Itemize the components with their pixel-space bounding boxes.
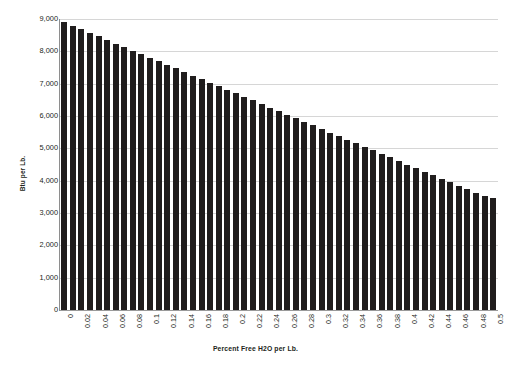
- x-axis-tick-label: 0.18: [222, 314, 230, 328]
- x-axis-tick-label: 0.22: [256, 314, 264, 328]
- bar: [70, 26, 76, 310]
- bar-chart: Btu per Lb. 9,0008,0007,0006,0005,0004,0…: [0, 0, 511, 366]
- bar: [216, 86, 222, 310]
- y-axis-tick-label: 4,000: [24, 177, 58, 185]
- x-axis-tick-label: 0.38: [394, 314, 402, 328]
- x-axis-tick-label: 0.32: [342, 314, 350, 328]
- bar: [250, 100, 256, 310]
- bar: [413, 168, 419, 310]
- bar: [138, 54, 144, 310]
- bar: [173, 68, 179, 310]
- x-axis-tick-label: 0.06: [119, 314, 127, 328]
- y-axis-tick-label: 8,000: [24, 47, 58, 55]
- x-axis-tick-label: 0.28: [308, 314, 316, 328]
- bar: [370, 150, 376, 310]
- x-axis-tick-label: 0.12: [170, 314, 178, 328]
- bar: [224, 90, 230, 310]
- x-axis-tick-label: 0.1: [153, 314, 161, 324]
- bar: [284, 115, 290, 310]
- x-axis-tick-label: 0.2: [239, 314, 247, 324]
- bar: [336, 136, 342, 310]
- y-axis-tick-label: 6,000: [24, 112, 58, 120]
- x-axis-tick-label: 0.4: [411, 314, 419, 324]
- x-axis-tick-label: 0.42: [428, 314, 436, 328]
- bar: [456, 186, 462, 310]
- bar: [241, 97, 247, 310]
- x-axis-tick-label: 0.16: [205, 314, 213, 328]
- bar: [164, 65, 170, 310]
- x-axis-tick-label: 0.24: [273, 314, 281, 328]
- bar: [113, 44, 119, 310]
- bar: [396, 161, 402, 310]
- x-axis-tick-label: 0.04: [102, 314, 110, 328]
- y-axis-tick-label: 1,000: [24, 274, 58, 282]
- x-axis-tick-label: 0.44: [445, 314, 453, 328]
- x-axis-title: Percent Free H2O per Lb.: [0, 345, 511, 352]
- bar: [344, 140, 350, 310]
- x-axis-tick-label: 0.14: [188, 314, 196, 328]
- y-axis-tick-label: 5,000: [24, 144, 58, 152]
- x-axis-tick-label: 0.3: [325, 314, 333, 324]
- x-axis-tick-label: 0: [67, 314, 75, 318]
- y-axis-tick-label: 2,000: [24, 241, 58, 249]
- bar: [490, 198, 496, 310]
- bar: [233, 93, 239, 310]
- bar: [121, 47, 127, 310]
- bar: [207, 83, 213, 310]
- y-axis-tick-label: 3,000: [24, 209, 58, 217]
- bar: [473, 193, 479, 310]
- bar: [130, 51, 136, 310]
- bar: [276, 111, 282, 310]
- bar: [379, 154, 385, 310]
- bar: [190, 76, 196, 310]
- bar: [147, 58, 153, 310]
- bar: [422, 172, 428, 310]
- x-axis-tick-label: 0.26: [291, 314, 299, 328]
- bar: [439, 179, 445, 310]
- bar: [430, 175, 436, 310]
- bar: [387, 157, 393, 310]
- bar: [362, 147, 368, 310]
- x-axis-tick-label: 0.08: [136, 314, 144, 328]
- x-axis-tick-label: 0.48: [480, 314, 488, 328]
- bar: [301, 122, 307, 310]
- x-axis-tick-labels: 00.020.040.060.080.10.120.140.160.180.20…: [60, 312, 498, 346]
- bar: [482, 196, 488, 310]
- bar: [61, 22, 67, 310]
- bar: [353, 143, 359, 310]
- plot-area: [60, 19, 498, 310]
- bar: [96, 36, 102, 310]
- gridline: [60, 310, 498, 311]
- bar: [181, 72, 187, 310]
- bar: [104, 40, 110, 310]
- bar: [404, 165, 410, 311]
- bar: [267, 108, 273, 310]
- y-axis-tick-label: 7,000: [24, 80, 58, 88]
- bar: [310, 125, 316, 310]
- bar: [464, 189, 470, 310]
- bar: [319, 129, 325, 310]
- x-axis-tick-label: 0.34: [359, 314, 367, 328]
- bar-series: [60, 19, 498, 310]
- bar: [447, 182, 453, 310]
- bar: [87, 33, 93, 310]
- x-axis-tick-label: 0.36: [376, 314, 384, 328]
- y-axis-tick-label: 0: [24, 306, 58, 314]
- y-axis-tick-label: 9,000: [24, 15, 58, 23]
- bar: [199, 79, 205, 310]
- bar: [156, 61, 162, 310]
- x-axis-tick-label: 0.46: [462, 314, 470, 328]
- bar: [78, 29, 84, 310]
- bar: [293, 118, 299, 310]
- x-axis-tick-label: 0.5: [497, 314, 505, 324]
- bar: [259, 104, 265, 310]
- bar: [327, 133, 333, 311]
- y-axis-tick-labels: 9,0008,0007,0006,0005,0004,0003,0002,000…: [24, 0, 58, 366]
- x-axis-tick-label: 0.02: [84, 314, 92, 328]
